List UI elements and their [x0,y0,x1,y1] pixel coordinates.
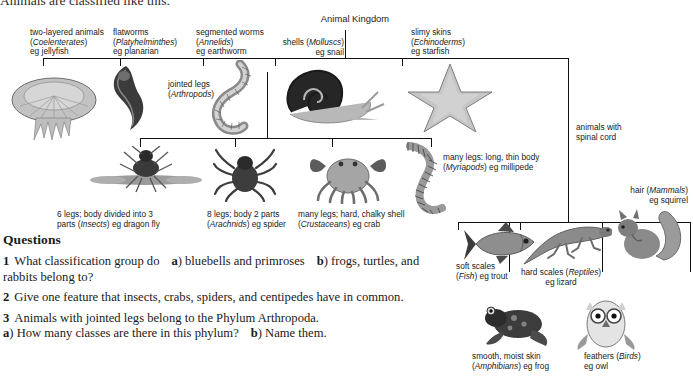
label-vertebrates: animals with spinal cord [576,123,676,142]
tree-drop-fish [458,222,459,230]
question-3: 3Animals with jointed legs belong to the… [3,311,439,342]
tree-drop-echinoderms [402,58,403,66]
questions-section: Questions 1What classification group doa… [3,232,439,347]
intro-sentence: Animals are classified like this. [0,0,280,5]
question-1a-text: ) bluebells and primroses [178,254,305,268]
label-myriapods: many legs: long, thin body (Myriapods) e… [443,153,583,172]
label-fish: soft scales (Fish) eg trout [456,262,518,281]
earthworm-illustration [196,60,266,136]
question-3b-marker: b [251,326,258,340]
tree-line-arthropod-stem [267,72,268,138]
question-2: 2Give one feature that insects, crabs, s… [3,290,439,306]
millipede-illustration [400,142,454,214]
tree-drop-crustaceans [332,138,333,147]
tree-drop-arachnids [235,138,236,147]
planarian-illustration [96,62,176,134]
question-1: 1What classification group doa) bluebell… [3,254,439,285]
root-label-animal-kingdom: Animal Kingdom [300,14,410,24]
label-birds: feathers (Birds) eg owl [584,352,676,371]
label-amphibians: smooth, moist skin (Amphibians) eg frog [472,352,576,371]
label-insects: 6 legs; body divided into 3 parts (Insec… [57,210,209,229]
question-3a-text: ) How many classes are there in this phy… [9,326,238,340]
tree-line-vertebrate-right-edge [690,222,691,272]
question-3-number: 3 [3,311,9,325]
label-molluscs: shells (Molluscs) eg snail [250,38,344,57]
tree-line-root-stem [345,30,346,58]
question-3-text: Animals with jointed legs belong to the … [14,311,319,325]
owl-illustration [566,294,646,350]
label-mammals: hair (Mammals) eg squirrel [570,186,688,205]
question-2-number: 2 [3,290,9,304]
squirrel-illustration [612,208,688,264]
questions-heading: Questions [3,232,439,248]
tree-line-main-bar [43,58,569,59]
label-echinoderms: slimy skins (Echinoderms) eg starfish [411,28,531,57]
tree-drop-coelenterates [43,58,44,66]
question-1-text: What classification group do [14,254,159,268]
spider-illustration [212,148,278,202]
starfish-illustration [404,62,496,134]
textbook-page: Animals are classified like this. Animal… [0,0,693,378]
label-reptiles: hard scales (Reptiles) eg lizard [515,268,607,287]
frog-illustration [474,300,558,348]
question-3b-text: ) Name them. [258,326,327,340]
tree-line-vertebrate-stem [568,58,569,222]
question-1-number: 1 [3,254,9,268]
tree-drop-molluscs [275,58,276,66]
lizard-illustration [520,218,612,270]
question-2-text: Give one feature that insects, crabs, sp… [14,290,353,304]
crab-illustration [306,150,390,204]
question-1b-text: ) frogs, [324,254,360,268]
snail-illustration [278,62,388,130]
tree-line-arthropod-bar [140,138,431,139]
jellyfish-illustration [8,72,100,142]
question-2-tail: common. [356,290,403,304]
dragonfly-illustration [86,146,206,204]
question-1b-marker: b [317,254,324,268]
